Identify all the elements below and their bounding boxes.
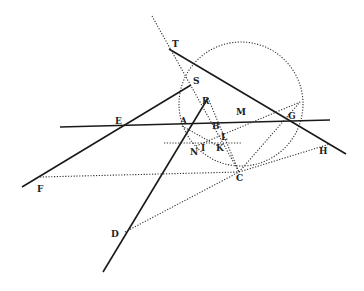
label-D: D <box>111 229 119 239</box>
label-B: B <box>212 121 220 131</box>
label-M: M <box>236 107 246 117</box>
label-L: L <box>221 132 228 142</box>
label-E: E <box>115 116 122 126</box>
geometry-diagram: T S R M G E A B L N I K H C F D <box>0 0 364 291</box>
solid-lines <box>22 49 346 272</box>
label-F: F <box>37 184 44 194</box>
label-S: S <box>193 76 200 86</box>
label-A: A <box>179 116 188 126</box>
label-R: R <box>202 96 210 106</box>
label-H: H <box>319 146 328 156</box>
label-G: G <box>288 111 296 121</box>
label-N: N <box>190 147 198 157</box>
label-C: C <box>236 173 243 183</box>
label-K: K <box>216 143 225 153</box>
label-I: I <box>201 143 205 153</box>
label-T: T <box>172 39 179 49</box>
